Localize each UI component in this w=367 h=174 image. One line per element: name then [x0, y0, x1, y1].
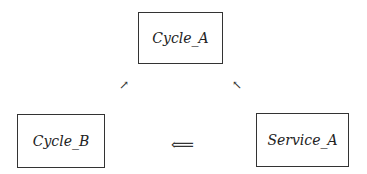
node-cycle-a: Cycle_A — [138, 12, 223, 64]
node-label: Service_A — [267, 132, 337, 148]
double-arrow-left-icon: ⟸ — [171, 137, 194, 153]
node-service-a: Service_A — [256, 113, 349, 167]
arrow-up-left-icon: ↖ — [232, 79, 242, 91]
node-label: Cycle_A — [152, 30, 208, 46]
node-label: Cycle_B — [33, 133, 90, 149]
arrow-up-right-icon: ↗ — [119, 79, 129, 91]
node-cycle-b: Cycle_B — [17, 114, 105, 168]
